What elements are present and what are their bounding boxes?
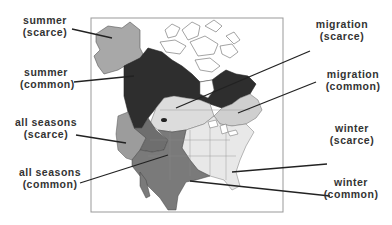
- label-all-seasons-common: all seasons (common): [14, 166, 86, 190]
- label-summer-common: summer (common): [20, 66, 72, 90]
- label-all-seasons-scarce: all seasons (scarce): [10, 116, 82, 140]
- lake-winnipeg: [161, 118, 167, 122]
- label-summer-scarce: summer (scarce): [20, 14, 70, 38]
- label-winter-scarce: winter (scarce): [326, 122, 378, 146]
- label-migration-scarce: migration (scarce): [310, 18, 374, 42]
- label-winter-common: winter (common): [322, 176, 380, 200]
- label-migration-common: migration (common): [320, 68, 386, 92]
